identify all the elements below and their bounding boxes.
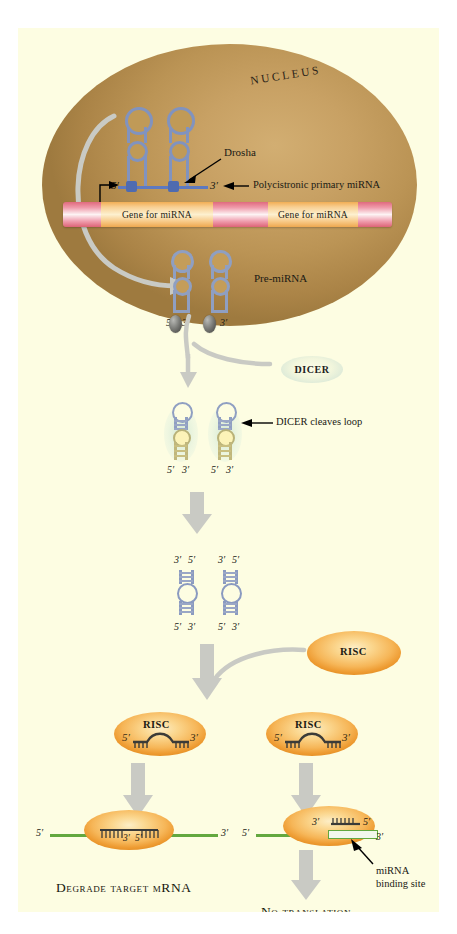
polycistronic-label: Polycistronic primary miRNA	[253, 180, 380, 191]
risc-block-complex	[283, 806, 375, 846]
hairpin-leg	[187, 290, 190, 312]
dicer-hairpin-1-3prime: 3′	[182, 465, 189, 475]
base-pair-rung	[223, 572, 237, 574]
dicer-hairpin-1	[170, 402, 192, 464]
drosha-cleavage-site-1	[126, 181, 137, 192]
gene-bar-spacer	[213, 202, 268, 227]
dicer-hairpin-1-5prime: 5′	[167, 465, 174, 475]
drosha-label: Drosha	[224, 147, 256, 158]
left-mrna-5prime: 5′	[36, 828, 43, 838]
left-pair-5prime: 5′	[135, 834, 142, 844]
hairpin-leg	[187, 265, 190, 279]
base-pair-rung	[179, 576, 193, 578]
dicer-hairpin-2-3prime: 3′	[226, 465, 233, 475]
hairpin-leg	[225, 290, 228, 312]
base-pair-rung	[174, 424, 187, 426]
risc-loaded-left-label: RISC	[143, 719, 170, 730]
risc-right-5prime: 5′	[274, 732, 282, 743]
nuclear-pore-left	[169, 315, 182, 333]
duplex-1-top-3prime: 3′	[174, 555, 181, 565]
base-pair-rung	[223, 607, 237, 609]
hairpin-leg	[211, 265, 214, 279]
gene-label: Gene for miRNA	[278, 209, 348, 220]
pre-mirna-2	[208, 250, 232, 318]
base-pair-rung	[174, 420, 187, 422]
duplex-1-bottom-3prime: 3′	[188, 622, 195, 632]
base-pair-rung	[179, 572, 193, 574]
risc-left-5prime: 5′	[122, 732, 130, 743]
risc-free-label: RISC	[340, 646, 367, 657]
base-pair-rung	[174, 455, 187, 457]
gene-bar: Gene for miRNA Gene for miRNA	[63, 202, 392, 227]
gene-label: Gene for miRNA	[122, 209, 192, 220]
dicer-hairpin-2	[214, 402, 236, 464]
base-pair-rung	[179, 611, 193, 613]
pre-mirna-2-3prime: 3′	[220, 318, 227, 328]
hairpin-leg	[173, 265, 176, 279]
risc-degrade-complex	[84, 810, 174, 850]
dicer-hairpin-2-5prime: 5′	[211, 465, 218, 475]
duplex-1-top-5prime: 5′	[188, 555, 195, 565]
hairpin-leg	[186, 127, 189, 143]
hairpin-leg	[173, 290, 176, 312]
mirna-duplex-1	[176, 570, 198, 622]
risc-loaded-right-label: RISC	[295, 719, 322, 730]
dicer-text: DICER	[294, 364, 329, 375]
risc-right-3prime: 3′	[342, 732, 350, 743]
hairpin-leg	[225, 265, 228, 279]
base-pair-rung	[218, 420, 231, 422]
duplex-2-top-5prime: 5′	[232, 555, 239, 565]
right-mirna-3prime: 3′	[312, 817, 319, 827]
pri-mirna-hairpin-2	[165, 107, 193, 191]
drosha-cleavage-site-2	[168, 181, 179, 192]
right-mrna-5prime: 5′	[242, 828, 249, 838]
pre-mirna-label: Pre-miRNA	[254, 273, 307, 284]
hairpin-leg	[127, 127, 130, 143]
base-pair-rung	[179, 607, 193, 609]
base-pair-rung	[223, 603, 237, 605]
base-pair-rung	[174, 450, 187, 452]
base-pair-rung	[223, 611, 237, 613]
gene-bar-spacer	[358, 202, 392, 227]
hairpin-leg	[186, 156, 189, 188]
right-mirna-5prime: 5′	[363, 817, 370, 827]
mirna-duplex-2	[220, 570, 242, 622]
hairpin-leg	[211, 290, 214, 312]
base-pair-rung	[179, 603, 193, 605]
duplex-2-bottom-3prime: 3′	[232, 622, 239, 632]
base-pair-rung	[218, 450, 231, 452]
pri-mirna-hairpin-1	[123, 107, 151, 191]
mirna-binding-site-label-line2: binding site	[376, 879, 425, 890]
gene-bar-spacer	[63, 202, 101, 227]
base-pair-rung	[218, 424, 231, 426]
nuclear-pore-right	[203, 315, 216, 333]
hairpin-leg	[169, 127, 172, 143]
hairpin-base	[211, 310, 228, 313]
hairpin-base	[173, 310, 190, 313]
pri-mirna-3prime: 3′	[210, 180, 218, 191]
mirna-binding-site-box	[328, 830, 378, 839]
dicer-cleaves-loop-label: DICER cleaves loop	[276, 417, 362, 428]
pre-mirna-1-3prime: 3′	[182, 318, 189, 328]
gene-bar-gene-1: Gene for miRNA	[101, 202, 213, 227]
pri-mirna-5prime: 5′	[111, 180, 119, 191]
risc-left-3prime: 3′	[190, 732, 198, 743]
base-pair-rung	[218, 455, 231, 457]
pre-mirna-1	[170, 250, 194, 318]
duplex-1-bottom-5prime: 5′	[174, 622, 181, 632]
base-pair-rung	[179, 580, 193, 582]
dicer-enzyme-label: DICER	[281, 356, 343, 383]
degrade-target-caption: Degrade target mRNA	[56, 880, 192, 896]
left-pair-3prime: 3′	[123, 834, 130, 844]
base-pair-rung	[223, 580, 237, 582]
duplex-2-bottom-5prime: 5′	[218, 622, 225, 632]
duplex-2-top-3prime: 3′	[218, 555, 225, 565]
no-translation-caption: No translation	[261, 904, 351, 912]
hairpin-leg	[144, 127, 147, 143]
base-pair-rung	[174, 445, 187, 447]
hairpin-leg	[144, 156, 147, 188]
gene-bar-gene-2: Gene for miRNA	[268, 202, 358, 227]
base-pair-rung	[223, 576, 237, 578]
mirna-binding-site-label-line1: miRNA	[376, 866, 409, 877]
left-mrna-3prime: 3′	[221, 828, 228, 838]
